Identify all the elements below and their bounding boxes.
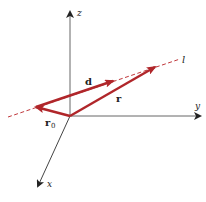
vector-r0-subscript: 0	[51, 122, 55, 130]
x-axis-label: x	[47, 179, 52, 189]
vector-d-label: d	[85, 76, 92, 87]
line-vector-diagram: z y x l d r r 0	[0, 0, 206, 202]
vector-r0	[36, 107, 70, 116]
y-axis-label: y	[194, 101, 201, 111]
z-axis-label: z	[76, 8, 82, 18]
vector-r-label: r	[116, 93, 122, 104]
vector-d	[36, 81, 113, 107]
line-l-label: l	[182, 54, 185, 65]
